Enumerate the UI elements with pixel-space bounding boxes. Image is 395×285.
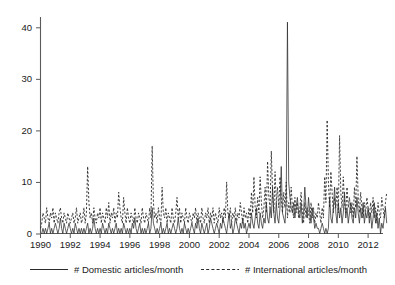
data-series-layer — [41, 22, 387, 233]
series-line-international — [41, 120, 387, 228]
x-tick-label: 1992 — [60, 239, 81, 250]
x-tick-label: 2008 — [298, 239, 319, 250]
chart-figure: 010203040 199019921994199619982000200220… — [0, 0, 395, 285]
x-tick-label: 1990 — [30, 239, 51, 250]
y-axis-tick-labels: 010203040 — [21, 22, 32, 239]
y-tick-label: 20 — [21, 125, 32, 136]
legend-label-international: # International articles/month — [245, 264, 367, 275]
y-tick-label: 40 — [21, 22, 32, 33]
x-tick-label: 2010 — [328, 239, 349, 250]
x-axis-tick-marks — [41, 234, 369, 239]
x-tick-label: 2002 — [209, 239, 230, 250]
x-tick-label: 2012 — [358, 239, 379, 250]
y-axis-tick-marks — [36, 28, 41, 234]
chart-legend: # Domestic articles/month # Internationa… — [30, 264, 367, 275]
legend-label-domestic: # Domestic articles/month — [74, 264, 183, 275]
y-tick-label: 30 — [21, 73, 32, 84]
x-tick-label: 1998 — [149, 239, 170, 250]
x-tick-label: 2004 — [238, 239, 259, 250]
x-tick-label: 1994 — [89, 239, 110, 250]
y-tick-label: 0 — [27, 228, 32, 239]
x-axis-tick-labels: 1990199219941996199820002002200420062008… — [30, 239, 379, 250]
y-tick-label: 10 — [21, 176, 32, 187]
x-tick-label: 2000 — [179, 239, 200, 250]
x-tick-label: 1996 — [119, 239, 140, 250]
x-tick-label: 2006 — [268, 239, 289, 250]
article-counts-line-chart: 010203040 199019921994199619982000200220… — [0, 0, 395, 285]
